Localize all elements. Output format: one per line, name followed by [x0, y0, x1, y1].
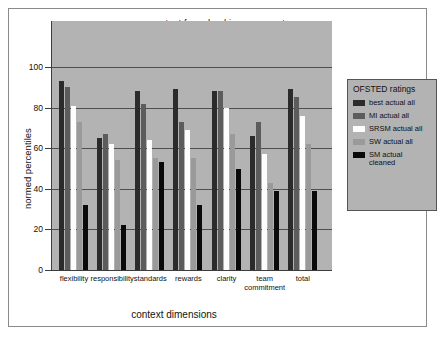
- legend-title: OFSTED ratings: [353, 84, 433, 94]
- bar: [212, 91, 217, 270]
- legend-item[interactable]: SW actual all: [353, 138, 433, 146]
- y-tick-label: 80: [17, 103, 43, 113]
- legend-item-label: SW actual all: [369, 138, 413, 146]
- chart-figure: context for school improvement normed pe…: [8, 8, 427, 327]
- legend-swatch-icon: [353, 113, 365, 119]
- bar: [294, 97, 299, 270]
- x-tick-label: flexibility: [60, 275, 88, 284]
- x-tick-label: rewards: [175, 275, 202, 284]
- bar-group: [97, 20, 127, 270]
- legend-swatch-icon: [353, 152, 365, 158]
- chart-legend: OFSTED ratings best actual allMI actual …: [347, 79, 437, 211]
- bar: [300, 116, 305, 270]
- bar: [230, 134, 235, 270]
- legend-swatch-icon: [353, 100, 365, 106]
- bar: [71, 106, 76, 270]
- legend-item-label: MI actual all: [369, 112, 409, 120]
- legend-item[interactable]: SRSM actual all: [353, 125, 433, 133]
- bar: [218, 91, 223, 270]
- legend-item[interactable]: SM actual cleaned: [353, 151, 433, 167]
- bar: [147, 140, 152, 270]
- y-tick-label: 0: [17, 265, 43, 275]
- bar: [121, 225, 126, 270]
- x-tick-label: responsibility: [90, 275, 133, 284]
- x-tick-label: standards: [134, 275, 167, 284]
- bar: [256, 122, 261, 270]
- bar-group: [250, 20, 280, 270]
- bar-group: [288, 20, 318, 270]
- bar: [268, 183, 273, 270]
- y-tick-mark: [45, 67, 51, 68]
- x-tick-label: total: [296, 275, 310, 284]
- y-tick-label: 100: [17, 62, 43, 72]
- bar: [288, 89, 293, 270]
- bar: [77, 122, 82, 270]
- bar: [312, 191, 317, 270]
- bar-group: [212, 20, 242, 270]
- x-tick-label: clarity: [217, 275, 237, 284]
- bar: [179, 122, 184, 270]
- bar: [185, 130, 190, 270]
- bar: [224, 108, 229, 270]
- bar: [173, 89, 178, 270]
- bar-group: [135, 20, 165, 270]
- y-tick-label: 40: [17, 184, 43, 194]
- bar: [274, 191, 279, 270]
- legend-item[interactable]: MI actual all: [353, 112, 433, 120]
- bar: [236, 169, 241, 271]
- bar: [83, 205, 88, 270]
- bar: [197, 205, 202, 270]
- bar: [115, 160, 120, 270]
- y-tick-mark: [45, 270, 51, 271]
- y-axis-label: normed percentiles: [22, 128, 33, 209]
- bar: [250, 136, 255, 270]
- legend-item-label: best actual all: [369, 99, 415, 107]
- legend-item-label: SM actual cleaned: [369, 151, 402, 167]
- legend-swatch-icon: [353, 139, 365, 145]
- bar: [103, 134, 108, 270]
- bar: [262, 154, 267, 270]
- legend-swatch-icon: [353, 126, 365, 132]
- x-axis-line: [51, 270, 332, 271]
- legend-item-label: SRSM actual all: [369, 125, 422, 133]
- bar-group: [59, 20, 89, 270]
- bar: [153, 158, 158, 270]
- bar: [109, 144, 114, 270]
- bar: [97, 138, 102, 270]
- y-tick-mark: [45, 229, 51, 230]
- y-axis-line: [51, 21, 52, 271]
- legend-rows: best actual allMI actual allSRSM actual …: [353, 99, 433, 167]
- bar: [159, 162, 164, 270]
- bar: [135, 91, 140, 270]
- x-tick-label: team commitment: [244, 275, 285, 292]
- y-tick-label: 60: [17, 143, 43, 153]
- bar: [59, 81, 64, 270]
- bar: [306, 144, 311, 270]
- bar-group: [173, 20, 203, 270]
- bar: [65, 87, 70, 270]
- bar: [191, 158, 196, 270]
- legend-item[interactable]: best actual all: [353, 99, 433, 107]
- y-tick-label: 20: [17, 224, 43, 234]
- y-tick-mark: [45, 108, 51, 109]
- x-axis-label: context dimensions: [9, 309, 339, 320]
- y-tick-mark: [45, 148, 51, 149]
- bar: [141, 104, 146, 270]
- plot-area: [51, 21, 332, 271]
- y-tick-mark: [45, 189, 51, 190]
